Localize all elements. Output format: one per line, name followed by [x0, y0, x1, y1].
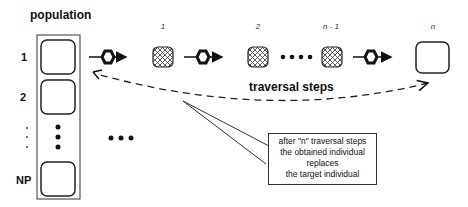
callout-line-3: replaces — [273, 158, 372, 169]
population-container — [37, 35, 80, 199]
individual-2 — [41, 80, 75, 114]
row-label-1: 1 — [21, 51, 27, 63]
traversal-steps-label: traversal steps — [249, 80, 334, 94]
individual-1 — [41, 40, 75, 74]
hexagon-icon — [102, 51, 114, 63]
callout-line-2: the obtained individual — [273, 147, 372, 158]
row-label-np: NP — [16, 174, 31, 186]
crosshatched-square-icon — [322, 47, 342, 67]
step-label-n-minus-1: n - 1 — [316, 22, 346, 31]
callout-pointer — [183, 101, 269, 164]
hexagon-icon — [365, 51, 377, 63]
step-label-1: 1 — [148, 22, 178, 31]
population-title: population — [30, 8, 91, 22]
rounded-square-icon — [416, 42, 449, 73]
row-label-2: 2 — [20, 91, 26, 103]
diagram: population 1 2 NP 1 2 n - 1 n traversal … — [0, 0, 468, 207]
step-label-2: 2 — [243, 22, 273, 31]
hexagon-icon — [197, 51, 209, 63]
callout-line-1: after "n" traversal steps — [273, 136, 372, 147]
individual-np — [41, 162, 75, 196]
traversal-chain — [89, 42, 449, 73]
callout-line-4: the target individual — [273, 169, 372, 180]
step-label-n: n — [418, 22, 448, 31]
callout-box: after "n" traversal steps the obtained i… — [268, 133, 377, 185]
crosshatched-square-icon — [153, 47, 173, 67]
crosshatched-square-icon — [248, 47, 268, 67]
diagram-graphics — [0, 0, 468, 207]
